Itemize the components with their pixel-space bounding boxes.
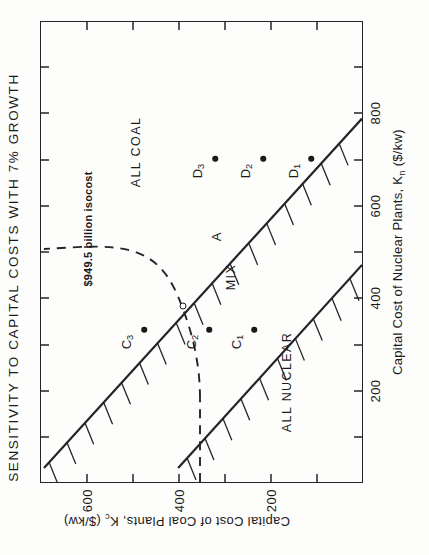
y-axis-title: Capital Cost of Coal Plants, Kc ($/kw) xyxy=(64,512,290,529)
xtick-label-800: 800 xyxy=(368,101,383,124)
data-point-label-c3: C3 xyxy=(119,335,136,350)
plot-area: ALL NUCLEAR MIX ALL COAL $949.5 billion … xyxy=(40,21,363,483)
chart-figure: SENSITIVITY TO CAPITAL COSTS WITH 7% GRO… xyxy=(0,0,429,555)
ytick-label-200: 200 xyxy=(264,489,279,512)
data-point-label-d1: D1 xyxy=(286,164,303,179)
figure-canvas: SENSITIVITY TO CAPITAL COSTS WITH 7% GRO… xyxy=(0,0,429,555)
data-point-label-d3: D3 xyxy=(190,164,207,179)
data-point-label-c1: C1 xyxy=(229,335,246,350)
region-label-all-nuclear: ALL NUCLEAR xyxy=(280,332,294,432)
x-axis-title: Capital Cost of Nuclear Plants, Kn ($/kw… xyxy=(390,21,407,483)
data-point-label-c2: C2 xyxy=(184,335,201,350)
xtick-label-600: 600 xyxy=(368,194,383,217)
point-marker-b xyxy=(180,303,187,310)
xtick-label-400: 400 xyxy=(368,286,383,309)
y-axis-title-text: Capital Cost of Coal Plants, K xyxy=(110,514,290,529)
isocost-curve xyxy=(44,247,200,482)
ytick-label-600: 600 xyxy=(80,489,95,512)
rotated-figure-wrapper: SENSITIVITY TO CAPITAL COSTS WITH 7% GRO… xyxy=(0,0,429,555)
isocost-label: $949.5 billion isocost xyxy=(82,171,94,286)
data-point-d2 xyxy=(260,156,266,162)
point-label-a: A xyxy=(209,233,224,242)
data-point-d3 xyxy=(212,156,218,162)
data-point-d1 xyxy=(308,156,314,162)
region-label-mix: MIX xyxy=(224,264,238,290)
lower-boundary-line xyxy=(178,265,362,480)
data-point-label-d2: D2 xyxy=(238,164,255,179)
x-axis-title-text: Capital Cost of Nuclear Plants, K xyxy=(390,176,405,375)
ytick-label-400: 400 xyxy=(172,489,187,512)
chart-title: SENSITIVITY TO CAPITAL COSTS WITH 7% GRO… xyxy=(6,0,21,555)
y-axis-title-units: ($/kw) xyxy=(64,514,105,529)
y-axis-title-subscript: c xyxy=(105,512,110,522)
x-axis-title-subscript: n xyxy=(397,170,407,176)
data-point-c2 xyxy=(206,327,212,333)
data-point-c1 xyxy=(251,327,257,333)
xtick-label-200: 200 xyxy=(368,379,383,402)
data-point-c3 xyxy=(141,327,147,333)
x-axis-title-units: ($/kw) xyxy=(390,129,405,170)
region-label-all-coal: ALL COAL xyxy=(129,117,143,188)
